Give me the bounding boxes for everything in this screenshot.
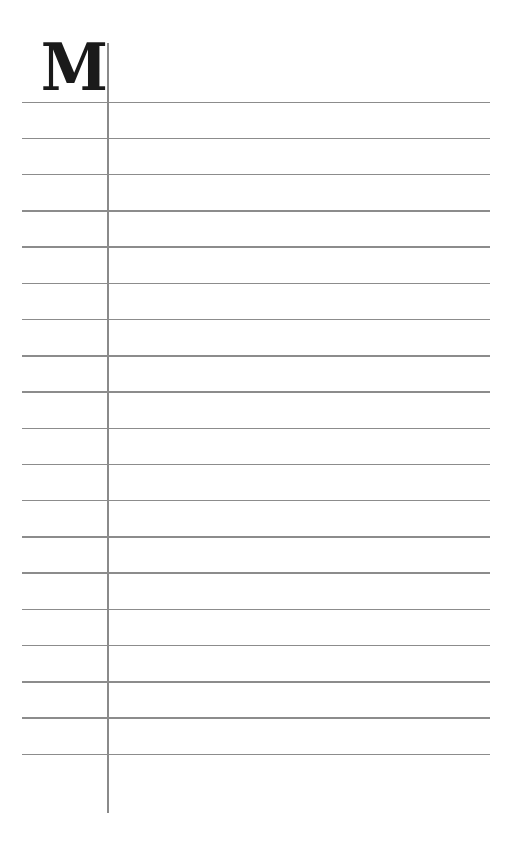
- ruled-line: [22, 102, 490, 104]
- ruled-line: [22, 210, 490, 212]
- decorative-initial: M: [41, 34, 106, 100]
- ruled-line: [22, 645, 490, 647]
- notebook-page: M: [0, 0, 510, 847]
- ruled-line: [22, 174, 490, 176]
- ruled-line: [22, 428, 490, 430]
- ruled-line: [22, 464, 490, 466]
- ruled-line: [22, 609, 490, 611]
- ruled-line: [22, 283, 490, 285]
- ruled-line: [22, 681, 490, 683]
- ruled-line: [22, 500, 490, 502]
- ruled-line: [22, 319, 490, 321]
- ruled-line: [22, 138, 490, 140]
- ruled-line: [22, 536, 490, 538]
- ruled-line: [22, 246, 490, 248]
- ruled-line: [22, 717, 490, 719]
- ruled-line: [22, 754, 490, 756]
- ruled-line: [22, 355, 490, 357]
- ruled-line: [22, 572, 490, 574]
- ruled-line: [22, 391, 490, 393]
